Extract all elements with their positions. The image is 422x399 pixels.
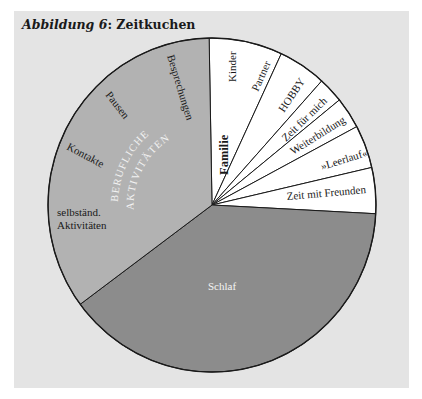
pie-chart: Kinder Partner Familie HOBBY Zeit für mi… bbox=[0, 0, 422, 399]
label-kinder: Kinder bbox=[226, 51, 238, 82]
label-selbstaend-2: Aktivitäten bbox=[57, 219, 107, 231]
label-familie: Familie bbox=[217, 134, 231, 175]
label-schlaf: Schlaf bbox=[208, 280, 236, 292]
label-selbstaend-1: selbständ. bbox=[57, 206, 101, 218]
pie-slices bbox=[48, 38, 376, 372]
